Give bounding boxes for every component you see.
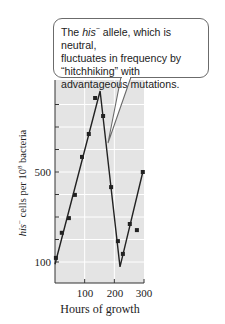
data-point xyxy=(128,222,132,226)
x-tick-label-300: 300 xyxy=(136,287,153,299)
data-point xyxy=(73,193,77,197)
callout-line-3: “hitchhiking” with xyxy=(61,65,202,78)
data-point xyxy=(121,252,125,256)
callout-line-2: fluctuates in frequency by xyxy=(61,52,202,65)
data-point xyxy=(135,228,139,232)
x-tick-label-200: 200 xyxy=(107,287,124,299)
callout-italic: his xyxy=(82,26,96,38)
callout-line-1: The his− allele, which is neutral, xyxy=(61,22,202,52)
data-point xyxy=(101,114,105,118)
plot-area xyxy=(55,80,144,283)
y-tick-label-100: 100 xyxy=(35,256,52,268)
y-axis-title-italic: his xyxy=(17,224,28,236)
data-point xyxy=(109,185,113,189)
data-point xyxy=(67,216,71,220)
figure: 500 100 100 200 300 Hours of growth his−… xyxy=(0,0,225,324)
callout-bubble: The his− allele, which is neutral, fluct… xyxy=(53,18,209,78)
data-point xyxy=(60,231,64,235)
data-point xyxy=(141,170,145,174)
data-point xyxy=(116,239,120,243)
callout-line-4: advantageous mutations. xyxy=(61,78,202,91)
x-axis-title: Hours of growth xyxy=(60,302,139,316)
data-point xyxy=(93,96,97,100)
data-point xyxy=(87,132,91,136)
y-tick-label-500: 500 xyxy=(35,166,52,178)
y-axis-title-mid: cells per 10 xyxy=(17,169,28,220)
y-axis-title-post: bacteria xyxy=(17,129,28,165)
y-axis-title: his− cells per 108 bacteria xyxy=(16,129,28,236)
data-point xyxy=(80,155,84,159)
x-tick-label-100: 100 xyxy=(77,287,94,299)
callout-pointer-join xyxy=(122,76,130,79)
data-point xyxy=(54,256,58,260)
